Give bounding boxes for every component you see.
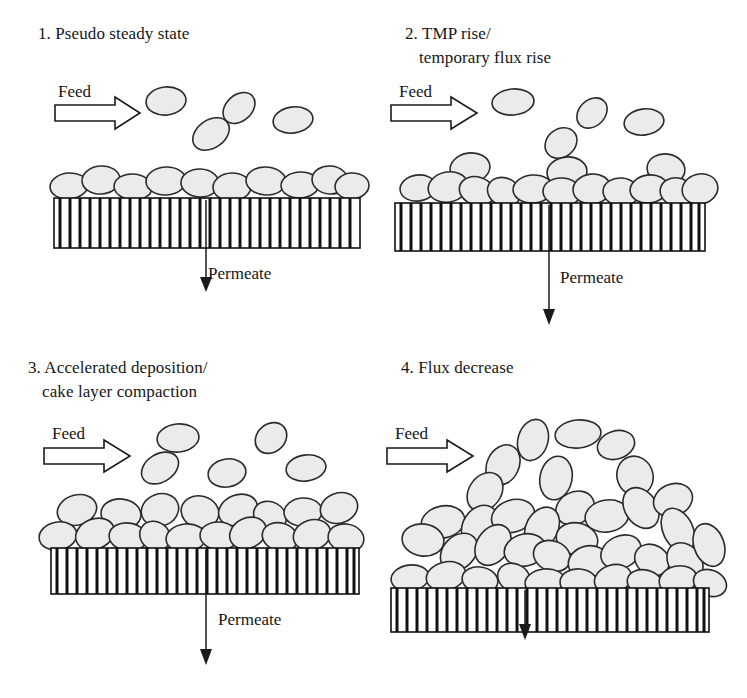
particle	[271, 104, 314, 135]
membrane-fouling-figure: 1. Pseudo steady state Feed Permeate	[0, 0, 747, 698]
panel-3-graphics	[0, 340, 373, 698]
panel-3-membrane	[51, 548, 359, 594]
panel-1-graphics	[0, 0, 373, 340]
feed-arrow-icon	[44, 440, 130, 472]
feed-arrow-icon	[387, 440, 473, 472]
panel-2: 2. TMP rise/ temporary flux rise Feed Pe…	[373, 0, 747, 340]
feed-arrow-icon	[55, 97, 140, 129]
panel-4: 4. Flux decrease Feed Permeate	[373, 340, 747, 698]
particle	[284, 452, 327, 483]
panel-4-graphics	[373, 340, 747, 698]
particle	[249, 416, 293, 460]
particle	[156, 422, 201, 454]
panel-1-free-particles	[145, 85, 315, 157]
panel-3-free-particles	[136, 416, 328, 490]
panel-2-graphics	[373, 0, 747, 340]
panel-1: 1. Pseudo steady state Feed Permeate	[0, 0, 373, 340]
feed-arrow-icon	[391, 97, 477, 129]
panel-2-membrane	[395, 203, 705, 251]
particle	[491, 87, 535, 117]
particle	[571, 92, 613, 134]
particle	[245, 166, 286, 196]
particle	[554, 418, 603, 451]
panel-1-cake-layer	[49, 164, 370, 201]
particle	[145, 85, 188, 117]
particle	[622, 106, 665, 137]
panel-2-free-particles	[491, 87, 666, 189]
panel-3: 3. Accelerated deposition/ cake layer co…	[0, 340, 373, 698]
panel-4-membrane	[391, 588, 709, 632]
particle	[206, 456, 248, 490]
panel-1-membrane	[54, 198, 360, 248]
